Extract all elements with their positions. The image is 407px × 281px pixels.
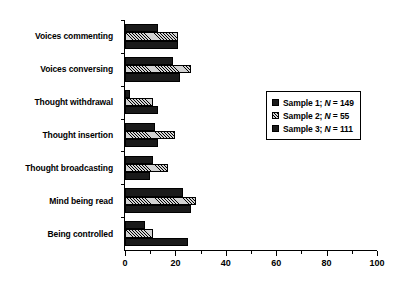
y-axis-tick	[121, 151, 125, 152]
bar	[125, 65, 191, 73]
bar	[125, 188, 183, 196]
bar	[125, 90, 130, 98]
bar	[125, 131, 175, 139]
y-axis-tick	[121, 217, 125, 218]
x-axis-tick-label: 60	[271, 258, 281, 268]
legend-item: Sample 2; N = 55	[272, 109, 354, 122]
legend-swatch-icon	[272, 125, 279, 132]
x-axis-tick	[276, 251, 277, 256]
bar	[125, 32, 178, 40]
bar	[125, 98, 153, 106]
legend-swatch-icon	[272, 112, 279, 119]
legend-label: Sample 3; N = 111	[283, 124, 353, 134]
category-label: Voices commenting	[35, 31, 113, 41]
category-axis-labels: Voices commentingVoices conversingThough…	[0, 20, 119, 250]
bar	[125, 123, 155, 131]
x-axis-tick	[377, 251, 378, 256]
legend-label: Sample 2; N = 55	[283, 111, 349, 121]
bar	[125, 205, 191, 213]
chart-legend: Sample 1; N = 149Sample 2; N = 55Sample …	[266, 91, 361, 140]
bar	[125, 221, 145, 229]
x-axis-tick	[125, 251, 126, 256]
y-axis-tick	[121, 86, 125, 87]
bar	[125, 106, 158, 114]
x-axis-tick-label: 40	[221, 258, 231, 268]
category-label: Voices conversing	[40, 64, 113, 74]
bar	[125, 172, 150, 180]
bar	[125, 238, 188, 246]
bar	[125, 156, 153, 164]
x-axis-tick-label: 100	[369, 258, 384, 268]
legend-item: Sample 1; N = 149	[272, 96, 354, 109]
legend-label: Sample 1; N = 149	[283, 98, 354, 108]
bar	[125, 139, 158, 147]
y-axis-tick	[121, 119, 125, 120]
bar	[125, 41, 178, 49]
category-label: Thought withdrawal	[35, 97, 113, 107]
bar	[125, 229, 153, 237]
y-axis-tick	[121, 184, 125, 185]
x-axis-minor-tick	[201, 251, 202, 254]
category-label: Thought insertion	[42, 130, 113, 140]
x-axis-minor-tick	[352, 251, 353, 254]
bar	[125, 73, 180, 81]
x-axis-tick-label: 80	[322, 258, 332, 268]
x-axis-tick-label: 20	[170, 258, 180, 268]
bar	[125, 197, 196, 205]
bar	[125, 164, 168, 172]
x-axis-tick	[226, 251, 227, 256]
category-label: Being controlled	[48, 229, 113, 239]
y-axis-tick	[121, 20, 125, 21]
x-axis-tick-label: 0	[122, 258, 127, 268]
x-axis-tick	[327, 251, 328, 256]
x-axis-minor-tick	[150, 251, 151, 254]
legend-item: Sample 3; N = 111	[272, 122, 354, 135]
x-axis-minor-tick	[301, 251, 302, 254]
bar-chart: Voices commentingVoices conversingThough…	[0, 0, 407, 281]
category-label: Mind being read	[49, 196, 113, 206]
bar	[125, 24, 158, 32]
y-axis-tick	[121, 53, 125, 54]
bar	[125, 57, 173, 65]
x-axis-tick	[175, 251, 176, 256]
legend-swatch-icon	[272, 99, 279, 106]
x-axis-minor-tick	[251, 251, 252, 254]
category-label: Thought broadcasting	[25, 163, 113, 173]
